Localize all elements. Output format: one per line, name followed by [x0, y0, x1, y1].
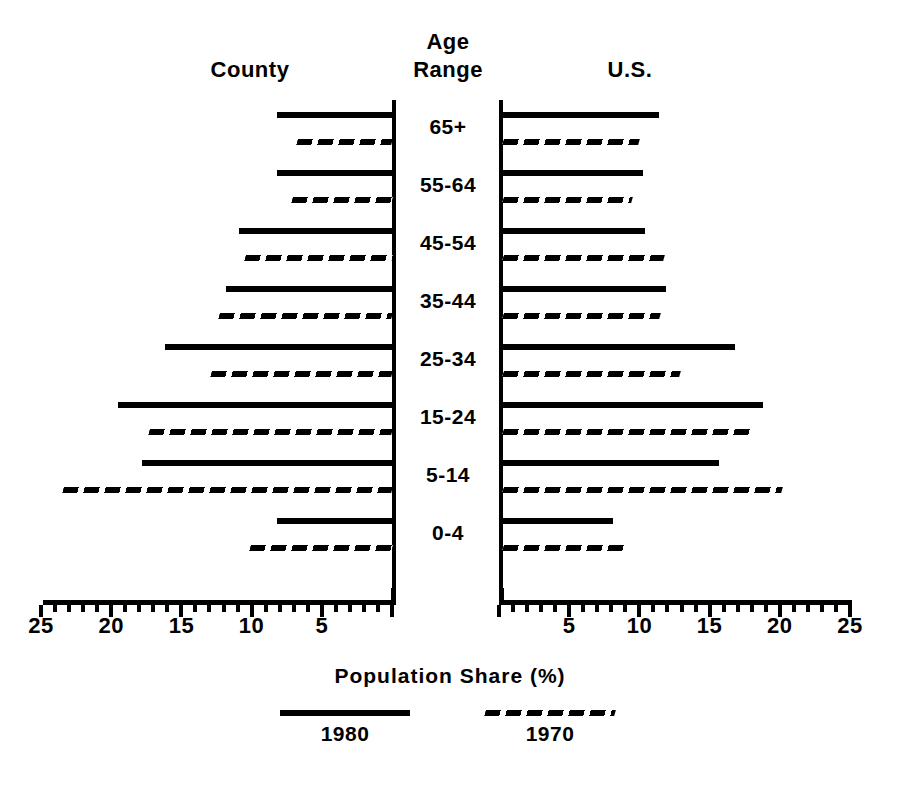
bar-county-1970-65plus [296, 139, 393, 145]
bar-county-1970-55-64 [291, 197, 392, 203]
tick-right-7 [595, 605, 599, 612]
tick-left-19 [123, 605, 127, 612]
tick-left-13 [207, 605, 211, 612]
tick-label-right-5: 5 [547, 613, 591, 639]
tick-left-11 [236, 605, 240, 612]
tick-label-left-5: 5 [300, 613, 344, 639]
legend-label-1980: 1980 [250, 722, 440, 746]
plot-area: 65+55-6445-5435-4425-3415-245-140-4 [0, 100, 900, 600]
tick-left-7 [292, 605, 296, 612]
tick-label-left-20: 20 [89, 613, 133, 639]
tick-left-9 [264, 605, 268, 612]
tick-right-22 [806, 605, 810, 612]
tick-right-24 [834, 605, 838, 612]
bar-county-1980-35-44 [226, 286, 392, 292]
tick-left-4 [334, 605, 338, 612]
tick-label-left-10: 10 [230, 613, 274, 639]
bar-u-s-1970-5-14 [502, 487, 783, 493]
legend-swatch-1970 [484, 710, 616, 716]
age-range-label: 15-24 [398, 405, 498, 429]
value-axis-left-endcap [391, 588, 396, 605]
age-range-label: 25-34 [398, 347, 498, 371]
bar-county-1980-25-34 [165, 344, 392, 350]
tick-right-1 [511, 605, 515, 612]
tick-left-18 [137, 605, 141, 612]
legend: 1980 1970 [0, 710, 900, 780]
tick-left-21 [95, 605, 99, 612]
tick-left-1 [376, 605, 380, 612]
bar-county-1970-0-4 [249, 545, 393, 551]
tick-right-16 [722, 605, 726, 612]
tick-left-16 [165, 605, 169, 612]
column-header-age-range: Age Range [398, 28, 498, 83]
tick-label-left-25: 25 [19, 613, 63, 639]
bar-u-s-1980-25-34 [503, 344, 735, 350]
bar-u-s-1970-0-4 [502, 545, 627, 551]
column-header-county: County [140, 57, 360, 83]
bar-u-s-1970-45-54 [502, 255, 665, 261]
tick-right-6 [581, 605, 585, 612]
age-range-label: 65+ [398, 115, 498, 139]
tick-right-11 [651, 605, 655, 612]
tick-right-0 [497, 605, 501, 617]
value-axis-right [499, 600, 852, 605]
bar-u-s-1970-15-24 [502, 429, 752, 435]
category-axis-left [392, 100, 396, 600]
tick-right-2 [525, 605, 529, 612]
tick-right-23 [820, 605, 824, 612]
age-range-label: 45-54 [398, 231, 498, 255]
bar-u-s-1980-45-54 [503, 228, 645, 234]
tick-right-19 [764, 605, 768, 612]
bar-u-s-1980-65plus [503, 112, 659, 118]
legend-swatch-1980 [280, 710, 410, 716]
tick-left-2 [362, 605, 366, 612]
tick-right-12 [665, 605, 669, 612]
bar-u-s-1970-55-64 [502, 197, 633, 203]
legend-entry-1970: 1970 [455, 710, 645, 746]
tick-left-24 [53, 605, 57, 612]
tick-left-23 [67, 605, 71, 612]
bar-county-1980-55-64 [277, 170, 392, 176]
tick-left-3 [348, 605, 352, 612]
tick-right-17 [736, 605, 740, 612]
bar-county-1970-5-14 [63, 487, 393, 493]
bar-u-s-1980-35-44 [503, 286, 666, 292]
tick-label-right-15: 15 [688, 613, 732, 639]
bar-county-1970-25-34 [210, 371, 393, 377]
bar-u-s-1980-15-24 [503, 402, 763, 408]
bar-u-s-1980-0-4 [503, 518, 613, 524]
tick-right-9 [623, 605, 627, 612]
tick-right-13 [680, 605, 684, 612]
bar-county-1980-5-14 [142, 460, 392, 466]
age-range-label: 35-44 [398, 289, 498, 313]
tick-label-right-25: 25 [828, 613, 872, 639]
value-axis-right-endcap [499, 588, 504, 605]
bar-u-s-1980-55-64 [503, 170, 643, 176]
bar-u-s-1970-35-44 [502, 313, 661, 319]
tick-right-3 [539, 605, 543, 612]
bar-county-1980-45-54 [239, 228, 392, 234]
bar-county-1980-0-4 [277, 518, 392, 524]
tick-right-14 [694, 605, 698, 612]
tick-label-right-10: 10 [617, 613, 661, 639]
bar-u-s-1980-5-14 [503, 460, 719, 466]
age-range-label: 55-64 [398, 173, 498, 197]
bar-county-1980-65plus [277, 112, 392, 118]
age-range-header-line2: Range [398, 56, 498, 84]
bar-county-1970-15-24 [148, 429, 393, 435]
column-header-us: U.S. [530, 57, 730, 83]
tick-left-8 [278, 605, 282, 612]
age-range-header-line1: Age [426, 29, 469, 54]
tick-right-8 [609, 605, 613, 612]
bar-county-1970-35-44 [218, 313, 392, 319]
tick-right-4 [553, 605, 557, 612]
population-pyramid-figure: County Age Range U.S. 65+55-6445-5435-44… [0, 0, 900, 791]
tick-left-6 [306, 605, 310, 612]
bar-county-1980-15-24 [118, 402, 392, 408]
tick-label-right-20: 20 [758, 613, 802, 639]
tick-label-left-15: 15 [159, 613, 203, 639]
tick-left-12 [222, 605, 226, 612]
tick-left-22 [81, 605, 85, 612]
tick-left-17 [151, 605, 155, 612]
tick-left-0 [390, 605, 394, 617]
